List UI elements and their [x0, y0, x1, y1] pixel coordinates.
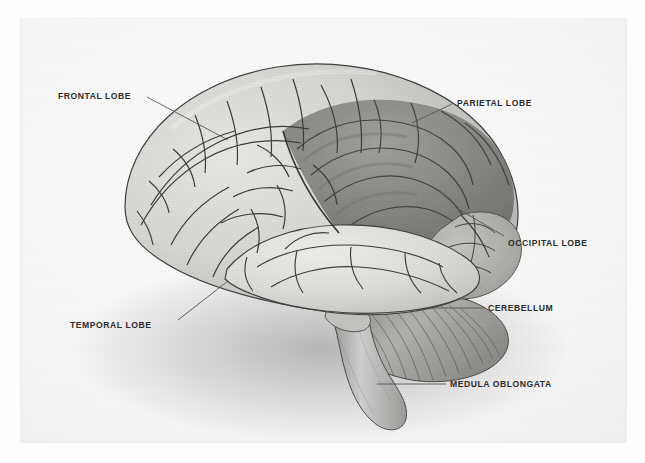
label-parietal-lobe: PARIETAL LOBE [457, 98, 532, 108]
label-medula-oblongata: MEDULA OBLONGATA [450, 379, 552, 389]
top-edge-text-fragment [31, 0, 71, 2]
label-frontal-lobe: FRONTAL LOBE [58, 91, 131, 101]
illustration-page: FRONTAL LOBE PARIETAL LOBE OCCIPITAL LOB… [0, 0, 645, 463]
label-occipital-lobe: OCCIPITAL LOBE [508, 238, 587, 248]
label-temporal-lobe: TEMPORAL LOBE [70, 320, 151, 330]
label-cerebellum: CEREBELLUM [488, 303, 553, 313]
